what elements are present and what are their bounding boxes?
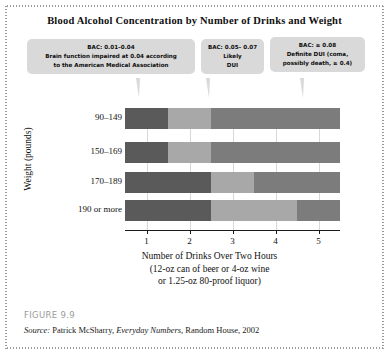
y-axis-title: Weight (pounds) [23, 114, 33, 204]
heatmap-cell [211, 108, 340, 129]
callout-bac-high-line-1: BAC: ≥ 0.08 [273, 41, 362, 50]
x-tick-label-5: 5 [309, 236, 329, 246]
source-title: Everyday Numbers [116, 325, 181, 335]
x-tick-2 [190, 230, 191, 234]
source-publisher: , Random House, 2002 [181, 325, 259, 335]
callout-bac-high-line-3: possibly death, ≥ 0.4) [273, 59, 362, 68]
heatmap-cell [211, 200, 297, 221]
figure-9-9: Blood Alcohol Concentration by Number of… [0, 0, 389, 354]
callout-bac-low-line-3: to the American Medical Association [30, 61, 192, 70]
heatmap-cell [125, 200, 211, 221]
heatmap-cell [125, 172, 211, 193]
x-tick-4 [276, 230, 277, 234]
heatmap-cell [254, 172, 340, 193]
heatmap-row [125, 108, 340, 129]
source-author: Patrick McSharry, [52, 325, 114, 335]
heatmap-row [125, 142, 340, 163]
heatmap-cell [211, 172, 254, 193]
chart-title: Blood Alcohol Concentration by Number of… [0, 15, 389, 26]
heatmap-row [125, 200, 340, 221]
heatmap-row [125, 172, 340, 193]
plot-area [125, 108, 340, 230]
x-tick-1 [147, 230, 148, 234]
callout-bac-mid: BAC: 0.05– 0.07 Likely DUI [201, 39, 264, 74]
x-tick-label-2: 2 [180, 236, 200, 246]
callout-bac-mid-line-2: Likely [204, 52, 261, 61]
callout-bac-mid-line-3: DUI [204, 61, 261, 70]
y-axis-label-1: 90–149 [50, 112, 122, 122]
x-axis-title-main: Number of Drinks Over Two Hours [60, 250, 359, 263]
y-axis-tick-labels: 90–149150–169170–189190 or more [46, 108, 122, 230]
heatmap-cell [211, 142, 340, 163]
x-tick-label-4: 4 [266, 236, 286, 246]
callout-pointer-high [300, 78, 304, 98]
callout-pointer-mid [206, 78, 210, 98]
figure-number: FIGURE 9.9 [24, 310, 75, 320]
heatmap-cell [297, 200, 340, 221]
callout-bac-high-line-2: Definite DUI (coma, [273, 50, 362, 59]
x-axis-title-sub-2: or 1.25-oz 80-proof liquor) [60, 275, 359, 288]
heatmap-cell [168, 142, 211, 163]
callout-group: BAC: 0.01–0.04 Brain function impaired a… [0, 36, 389, 88]
callout-bac-high: BAC: ≥ 0.08 Definite DUI (coma, possibly… [270, 37, 365, 72]
x-axis-title-sub-1: (12-oz can of beer or 4-oz wine [60, 263, 359, 276]
callout-bac-low-line-1: BAC: 0.01–0.04 [30, 43, 192, 52]
callout-bac-low: BAC: 0.01–0.04 Brain function impaired a… [27, 39, 195, 74]
x-tick-label-3: 3 [223, 236, 243, 246]
x-tick-5 [319, 230, 320, 234]
heatmap-cell [125, 108, 168, 129]
x-axis-title: Number of Drinks Over Two Hours (12-oz c… [60, 250, 359, 288]
source-label: Source: [24, 325, 50, 335]
callout-bac-mid-line-1: BAC: 0.05– 0.07 [204, 43, 261, 52]
figure-source: Source: Patrick McSharry, Everyday Numbe… [24, 325, 259, 335]
y-axis-label-4: 190 or more [50, 204, 122, 214]
heatmap-cell [125, 142, 168, 163]
y-axis-label-3: 170–189 [50, 176, 122, 186]
callout-pointer-low [136, 78, 140, 98]
x-tick-label-1: 1 [137, 236, 157, 246]
x-tick-3 [233, 230, 234, 234]
y-axis-label-2: 150–169 [50, 146, 122, 156]
heatmap-cell [168, 108, 211, 129]
callout-bac-low-line-2: Brain function impaired at 0.04 accordin… [30, 52, 192, 61]
